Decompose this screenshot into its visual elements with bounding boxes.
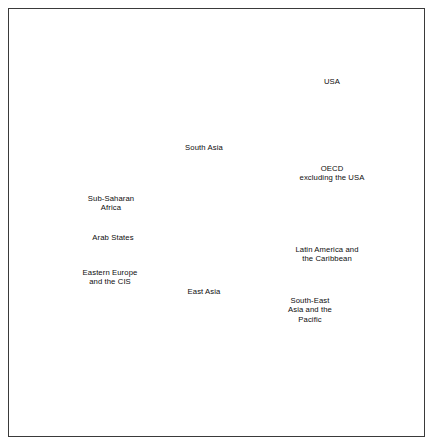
polar-area-chart	[0, 0, 437, 446]
chart-figure: USA OECD excluding the USA Latin America…	[0, 0, 437, 446]
